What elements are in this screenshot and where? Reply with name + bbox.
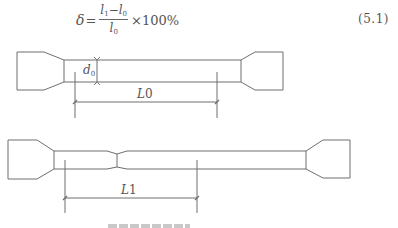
- specimen-after-test: [8, 140, 350, 213]
- gauge-length-label-l1: L1: [121, 184, 137, 196]
- specimen-before-test: [17, 52, 283, 118]
- tensile-specimen-figure: [0, 0, 398, 228]
- caption-glyph-tops: [108, 224, 190, 228]
- diameter-label-d0: d0: [83, 64, 95, 78]
- gauge-length-label-l0: L0: [137, 88, 153, 100]
- figure-caption-cutoff: [108, 223, 190, 228]
